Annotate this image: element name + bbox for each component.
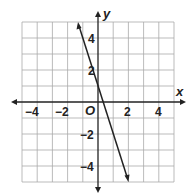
coordinate-plane: x y O −4 −2 2 4 4 2 −2 −4 (0, 0, 192, 196)
axes (14, 14, 183, 190)
y-tick-label: −4 (80, 160, 94, 174)
origin-label: O (85, 103, 95, 118)
y-tick-label: −2 (80, 128, 94, 142)
y-tick-label: 2 (88, 64, 95, 78)
y-tick-label: 4 (88, 32, 95, 46)
y-axis-label: y (102, 6, 111, 21)
x-tick-label: −2 (55, 105, 69, 119)
x-axis-label: x (175, 84, 184, 99)
x-tick-label: −4 (25, 105, 39, 119)
x-tick-label: 4 (155, 105, 162, 119)
x-tick-label: 2 (124, 105, 131, 119)
